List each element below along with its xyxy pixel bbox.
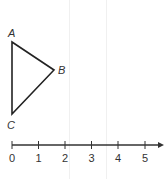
vertex-label-a: A [7, 27, 15, 39]
vertex-label-c: C [7, 119, 15, 131]
tick-label: 5 [142, 152, 148, 164]
diagram-canvas: A B C 0 1 2 3 4 5 [0, 0, 164, 179]
tick-label: 4 [115, 152, 121, 164]
tick-label: 2 [62, 152, 68, 164]
vertex-label-b: B [58, 64, 65, 76]
tick-label: 3 [88, 152, 94, 164]
number-line: 0 1 2 3 4 5 [9, 141, 164, 164]
tick-label: 1 [35, 152, 41, 164]
tick-label: 0 [9, 152, 15, 164]
arrow-right-icon [158, 142, 164, 148]
triangle-abc [12, 42, 54, 114]
